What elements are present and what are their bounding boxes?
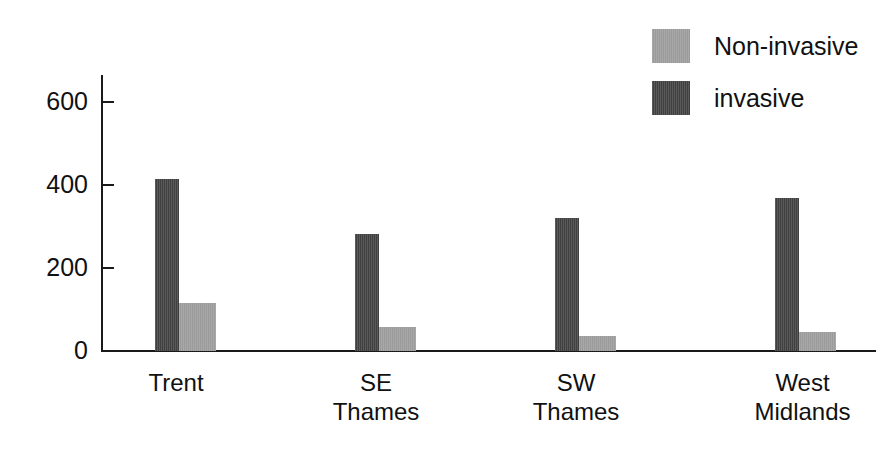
plot-area (101, 75, 876, 351)
bar-group-se-thames (355, 75, 415, 351)
bar-west-midlands-invasive[interactable] (775, 198, 799, 351)
x-category-label-west-midlands: West Midlands (735, 368, 870, 426)
bar-group-sw-thames (555, 75, 615, 351)
bar-group-trent (155, 75, 215, 351)
bar-se-thames-non-invasive[interactable] (379, 327, 416, 351)
y-tick-label-200: 200 (46, 255, 88, 280)
x-category-label-sw-thames: SW Thames (520, 368, 632, 426)
bar-trent-invasive[interactable] (155, 179, 179, 351)
legend-item-non-invasive[interactable]: Non-invasive (652, 20, 859, 72)
bar-se-thames-invasive[interactable] (355, 234, 379, 351)
y-tick-label-600: 600 (46, 89, 88, 114)
x-category-label-se-thames: SE Thames (320, 368, 432, 426)
bar-chart: Non-invasive invasive 600 400 200 0 (0, 0, 892, 453)
bar-trent-non-invasive[interactable] (179, 303, 216, 351)
bar-sw-thames-invasive[interactable] (555, 218, 579, 351)
bar-group-west-midlands (775, 75, 835, 351)
legend-swatch-non-invasive-icon (652, 29, 690, 63)
bar-west-midlands-non-invasive[interactable] (799, 332, 836, 351)
y-tick-label-0: 0 (74, 338, 88, 363)
x-category-label-trent: Trent (120, 368, 232, 397)
legend-label-non-invasive: Non-invasive (714, 34, 859, 59)
y-tick-label-400: 400 (46, 172, 88, 197)
bar-sw-thames-non-invasive[interactable] (579, 336, 616, 351)
